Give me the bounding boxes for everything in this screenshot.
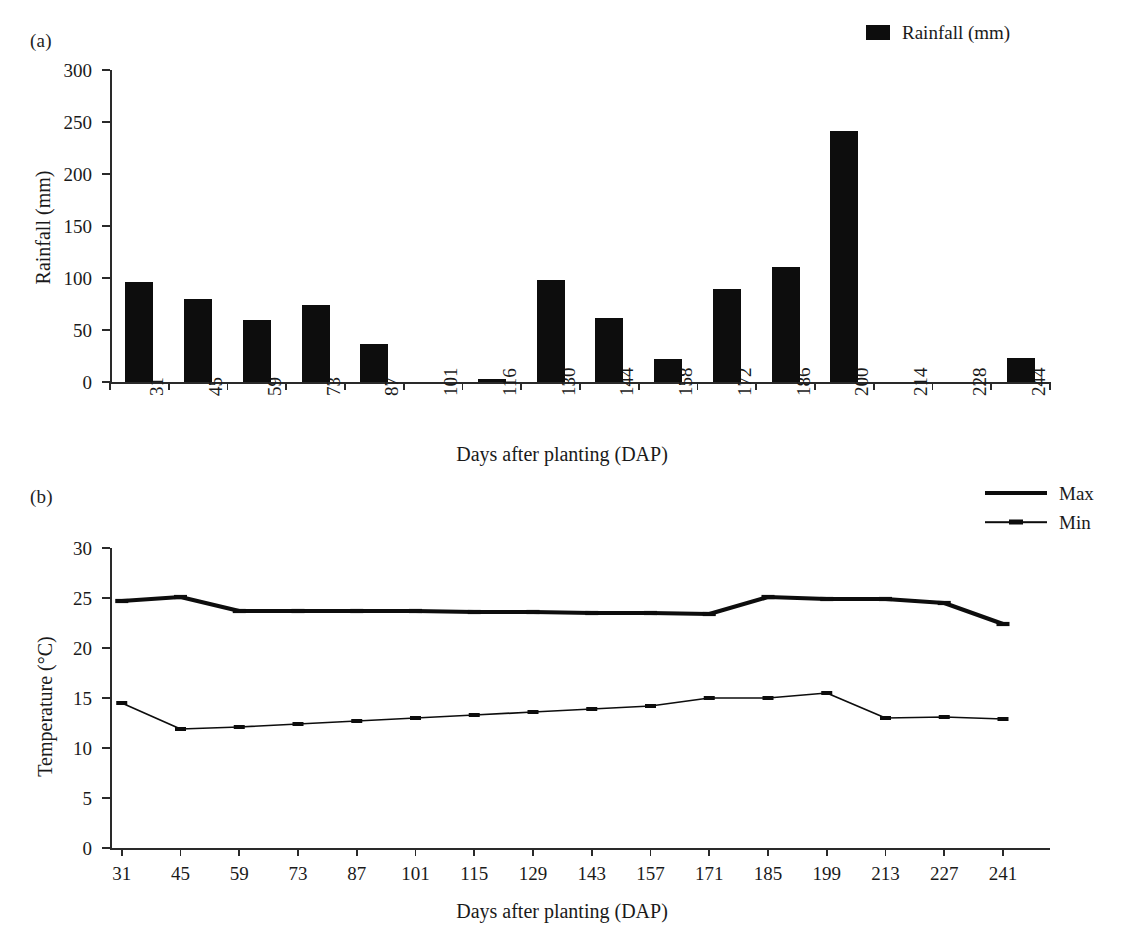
panel-a-x-tick-label: 228	[970, 368, 989, 397]
panel-a-plot-area: 0501001502002503003145597387101116130144…	[110, 70, 1050, 382]
data-point-marker-min	[586, 707, 597, 711]
data-point-marker-max	[468, 610, 481, 614]
panel-b-x-tick-label: 241	[989, 864, 1018, 883]
panel-b-y-tick	[102, 647, 110, 649]
max-line-swatch-icon	[985, 487, 1047, 499]
data-point-marker-max	[997, 622, 1010, 626]
panel-a-rainfall-chart: (a) Rainfall (mm) Rainfall (mm) 05010015…	[0, 0, 1124, 480]
panel-a-x-tick-label: 214	[911, 368, 930, 397]
panel-b-x-tick-label: 143	[578, 864, 607, 883]
data-point-marker-min	[763, 696, 774, 700]
panel-a-y-tick-label: 0	[12, 373, 92, 392]
panel-b-y-tick-label: 25	[12, 589, 92, 608]
bar-rainfall	[772, 267, 800, 382]
data-point-marker-min	[469, 713, 480, 717]
panel-b-x-tick-label: 185	[754, 864, 783, 883]
panel-b-temperature-chart: (b) Max Min Temperature (°C) 05101520253…	[0, 480, 1124, 949]
line-series-min	[122, 693, 1003, 729]
panel-a-x-tick	[990, 382, 992, 390]
data-point-marker-max	[350, 609, 363, 613]
panel-a-y-tick	[102, 121, 110, 123]
panel-a-x-tick	[403, 382, 405, 390]
bar-rainfall	[537, 280, 565, 382]
data-point-marker-max	[585, 611, 598, 615]
figure-root: (a) Rainfall (mm) Rainfall (mm) 05010015…	[0, 0, 1124, 949]
data-point-marker-min	[998, 717, 1009, 721]
panel-b-y-tick-label: 0	[12, 839, 92, 858]
panel-b-x-tick-label: 227	[930, 864, 959, 883]
panel-a-y-tick	[102, 277, 110, 279]
panel-b-x-tick-label: 45	[171, 864, 190, 883]
panel-a-y-tick-label: 150	[12, 217, 92, 236]
data-point-marker-min	[704, 696, 715, 700]
panel-b-x-tick-label: 129	[519, 864, 548, 883]
panel-a-x-tick	[109, 382, 111, 390]
panel-b-series-layer	[110, 548, 1110, 852]
data-point-marker-max	[174, 595, 187, 599]
panel-b-y-tick-label: 30	[12, 539, 92, 558]
bar-rainfall	[478, 379, 506, 382]
panel-b-x-tick-label: 157	[636, 864, 665, 883]
data-point-marker-min	[821, 691, 832, 695]
data-point-marker-min	[528, 710, 539, 714]
panel-b-x-axis-title: Days after planting (DAP)	[0, 900, 1124, 923]
panel-a-y-tick	[102, 173, 110, 175]
line-series-max	[122, 597, 1003, 624]
rainfall-swatch-icon	[866, 25, 890, 40]
panel-a-y-axis	[110, 70, 112, 382]
panel-b-plot-area: 0510152025303145597387101115129143157171…	[110, 548, 1050, 848]
panel-b-y-tick-label: 5	[12, 789, 92, 808]
panel-a-x-tick	[579, 382, 581, 390]
panel-a-y-tick	[102, 329, 110, 331]
panel-a-y-tick-label: 250	[12, 113, 92, 132]
panel-a-x-tick	[227, 382, 229, 390]
panel-a-x-tick	[873, 382, 875, 390]
panel-b-y-tick	[102, 747, 110, 749]
data-point-marker-max	[644, 611, 657, 615]
legend-item-min: Min	[985, 512, 1094, 532]
panel-b-x-tick-label: 73	[289, 864, 308, 883]
data-point-marker-min	[645, 704, 656, 708]
panel-b-x-tick-label: 101	[401, 864, 430, 883]
panel-a-x-tick	[344, 382, 346, 390]
panel-a-y-tick-label: 50	[12, 321, 92, 340]
panel-a-x-tick	[755, 382, 757, 390]
legend-label-max: Max	[1059, 484, 1094, 503]
panel-b-x-tick-label: 213	[871, 864, 900, 883]
panel-b-tag: (b)	[30, 486, 53, 508]
panel-a-x-tick	[932, 382, 934, 390]
panel-a-x-tick	[638, 382, 640, 390]
data-point-marker-min	[410, 716, 421, 720]
legend-label-min: Min	[1059, 513, 1091, 532]
legend-item-rainfall: Rainfall (mm)	[866, 22, 1010, 42]
panel-a-y-tick	[102, 225, 110, 227]
bar-rainfall	[830, 131, 858, 382]
data-point-marker-max	[879, 597, 892, 601]
panel-b-y-tick	[102, 847, 110, 849]
data-point-marker-min	[293, 722, 304, 726]
data-point-marker-max	[762, 595, 775, 599]
data-point-marker-max	[820, 597, 833, 601]
panel-b-x-tick-label: 199	[813, 864, 842, 883]
bar-rainfall	[595, 318, 623, 382]
panel-a-x-tick	[697, 382, 699, 390]
panel-b-y-tick	[102, 697, 110, 699]
data-point-marker-min	[116, 701, 127, 705]
bar-rainfall	[360, 344, 388, 382]
data-point-marker-max	[409, 609, 422, 613]
panel-b-legend: Max Min	[985, 483, 1094, 532]
bar-rainfall	[125, 282, 153, 382]
data-point-marker-max	[938, 601, 951, 605]
panel-b-x-tick-label: 171	[695, 864, 724, 883]
panel-a-tag: (a)	[30, 30, 52, 52]
panel-b-y-tick	[102, 797, 110, 799]
panel-b-x-tick-label: 31	[112, 864, 131, 883]
legend-label-rainfall: Rainfall (mm)	[902, 23, 1010, 42]
data-point-marker-max	[115, 599, 128, 603]
data-point-marker-max	[703, 612, 716, 616]
panel-b-y-tick	[102, 597, 110, 599]
data-point-marker-min	[175, 727, 186, 731]
panel-a-legend: Rainfall (mm)	[866, 22, 1010, 42]
panel-b-x-tick-label: 87	[347, 864, 366, 883]
data-point-marker-min	[234, 725, 245, 729]
